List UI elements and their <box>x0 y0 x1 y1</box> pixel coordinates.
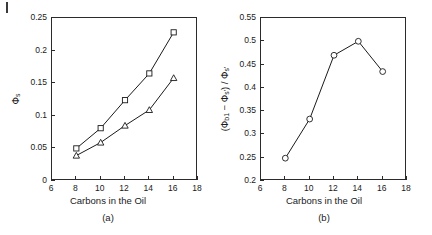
y-tick-label: 0.25 <box>218 153 256 162</box>
y-tickmark <box>51 115 55 116</box>
x-tickmark <box>51 176 52 180</box>
x-tickmark <box>197 176 198 180</box>
x-axis-title-b: Carbons in the Oil <box>216 195 432 206</box>
phi-denom-symbol: Φ <box>219 71 230 78</box>
y-tickmark <box>260 180 264 181</box>
plot-area-a <box>51 17 197 180</box>
y-tick-label: 0.25 <box>9 13 47 22</box>
plot-area-b <box>260 17 406 180</box>
data-point-marker-square <box>147 71 152 76</box>
paren-close-divide: ) / <box>219 78 230 89</box>
figure-container: 00.050.10.150.20.25681012141618 Φs Carbo… <box>0 0 432 235</box>
data-point-marker-triangle <box>73 152 79 158</box>
series-layer-a <box>52 18 198 181</box>
y-tickmark <box>260 110 264 111</box>
phi-denom-subscript: s' <box>223 66 230 71</box>
phi-s-symbol: Φ <box>219 94 230 101</box>
data-point-marker-circle <box>331 52 337 58</box>
y-tickmark <box>51 82 55 83</box>
x-tickmark <box>148 176 149 180</box>
x-tickmark <box>173 176 174 180</box>
data-point-marker-square <box>74 146 79 151</box>
y-tickmark <box>51 147 55 148</box>
series-line <box>76 32 173 148</box>
caption-a: (a) <box>0 212 216 223</box>
data-point-marker-circle <box>380 69 386 75</box>
y-tickmark <box>51 17 55 18</box>
y-tickmark <box>260 40 264 41</box>
panel-b: 0.20.250.30.350.40.450.50.55681012141618… <box>216 0 432 235</box>
y-tickmark <box>260 133 264 134</box>
y-tickmark <box>260 17 264 18</box>
data-point-marker-square <box>98 126 103 131</box>
phi-b1-symbol: Φ <box>219 120 230 127</box>
data-point-marker-circle <box>307 116 313 122</box>
phi-b1-subscript: b1 <box>223 113 230 121</box>
y-axis-title-a: Φs <box>10 93 22 104</box>
series-layer-b <box>261 18 407 181</box>
x-tick-label: 18 <box>391 184 421 193</box>
series-line <box>285 41 382 158</box>
panel-a: 00.050.10.150.20.25681012141618 Φs Carbo… <box>0 0 216 235</box>
x-tickmark <box>284 176 285 180</box>
series-line <box>76 78 173 156</box>
minus-sign: − <box>219 102 230 113</box>
x-tickmark <box>333 176 334 180</box>
data-point-marker-triangle <box>97 139 103 145</box>
y-tick-label: 0.05 <box>9 143 47 152</box>
x-tickmark <box>124 176 125 180</box>
y-tickmark <box>260 87 264 88</box>
data-point-marker-circle <box>355 38 361 44</box>
x-tickmark <box>100 176 101 180</box>
data-point-marker-square <box>122 98 127 103</box>
x-axis-title-a: Carbons in the Oil <box>0 195 216 206</box>
y-tick-label: 0.5 <box>218 36 256 45</box>
data-point-marker-square <box>171 30 176 35</box>
y-tick-label: 0.55 <box>218 13 256 22</box>
y-tick-label: 0.15 <box>9 78 47 87</box>
phi-symbol: Φ <box>10 96 21 103</box>
x-tickmark <box>382 176 383 180</box>
caption-b: (b) <box>216 212 432 223</box>
y-tick-label: 0.2 <box>9 46 47 55</box>
data-point-marker-circle <box>282 155 288 161</box>
data-point-marker-triangle <box>122 122 128 128</box>
phi-subscript: s <box>14 93 21 96</box>
x-tickmark <box>406 176 407 180</box>
x-tickmark <box>260 176 261 180</box>
y-tickmark <box>51 180 55 181</box>
data-point-marker-triangle <box>170 75 176 81</box>
y-tickmark <box>260 64 264 65</box>
y-tick-label: 0.1 <box>9 111 47 120</box>
x-tickmark <box>75 176 76 180</box>
x-tick-label: 18 <box>182 184 212 193</box>
y-tickmark <box>260 157 264 158</box>
x-tickmark <box>357 176 358 180</box>
y-axis-title-b: (Φb1 − Φs') / Φs' <box>219 66 231 131</box>
y-tickmark <box>51 50 55 51</box>
x-tickmark <box>309 176 310 180</box>
